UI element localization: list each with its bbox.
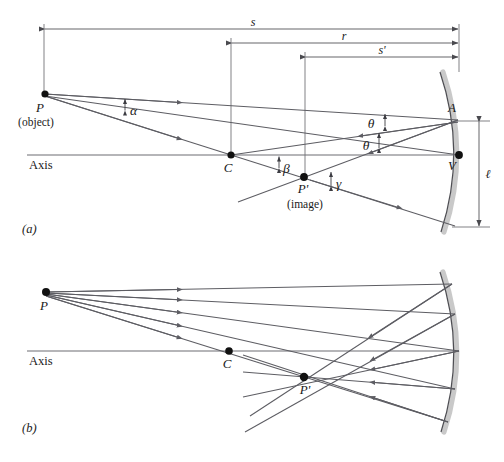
mirror-a (440, 72, 457, 232)
reflected-ray-A-arrow (370, 120, 458, 153)
dimension-s-prime-label: s' (378, 43, 386, 57)
point-P-prime-label-a: P' (297, 181, 309, 196)
reflected-rays-b (243, 284, 459, 432)
ray-P-through-C-arrow-2 (310, 180, 400, 208)
dimension-r-label: r (342, 29, 347, 43)
incident-ray-b-4-arrow (46, 295, 180, 326)
incident-rays-b (46, 284, 459, 422)
angle-alpha-label: α (130, 103, 138, 118)
point-A-label-a: A (447, 100, 456, 115)
dimension-s-label: s (251, 15, 256, 29)
dimension-lines-a: s r s' ℓ (44, 15, 491, 227)
point-P-b (42, 288, 50, 296)
point-P-prime-a (300, 173, 308, 181)
incident-ray-b-5-arrow (46, 296, 180, 338)
optics-ray-diagram: s r s' ℓ Axis (0, 0, 504, 462)
point-P-label-b: P (39, 298, 48, 313)
panel-b-label: (b) (22, 421, 37, 435)
angle-gamma-label: γ (336, 176, 342, 191)
point-P-prime-sublabel-a: (image) (287, 198, 323, 211)
rays-a (45, 94, 459, 226)
angle-beta-label: β (282, 161, 290, 176)
axis-label-b: Axis (29, 354, 53, 368)
radius-line-C-to-A-arrow (360, 122, 458, 136)
ray-P-through-C-arrow (45, 96, 180, 139)
point-P-prime-label-b: P' (299, 382, 311, 397)
point-P-prime-b (300, 373, 308, 381)
panel-a-label: (a) (22, 222, 37, 236)
point-P-a (41, 90, 48, 97)
dimension-l-label: ℓ (486, 167, 491, 181)
figure-root: s r s' ℓ Axis (0, 0, 504, 462)
point-C-label-b: C (223, 356, 232, 371)
point-P-label-a: P (35, 100, 44, 115)
axis-label-a: Axis (29, 158, 53, 172)
angle-theta-reflected-label: θ (363, 138, 370, 153)
point-C-label-a: C (224, 160, 233, 175)
angle-theta-incident-label: θ (368, 116, 375, 131)
incident-ray-P-to-A-arrow (45, 94, 180, 103)
point-C-a (227, 151, 234, 158)
reflected-ray-b-2-arrow (372, 314, 455, 360)
panel-b: Axis (22, 272, 459, 435)
point-V-a (455, 151, 463, 159)
point-P-sublabel-a: (object) (18, 116, 54, 129)
panel-a: s r s' ℓ Axis (18, 15, 490, 236)
paraxial-ray-P-to-V (45, 96, 459, 155)
incident-ray-b-1-arrow (46, 290, 180, 293)
reflected-ray-b-5-arrow (372, 397, 448, 422)
mirror-glass-backing-a (443, 72, 457, 232)
point-C-b (225, 347, 233, 355)
